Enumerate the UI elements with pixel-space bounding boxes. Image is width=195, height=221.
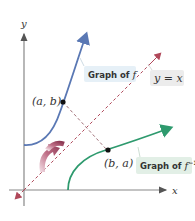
line-label: y = x	[153, 72, 183, 85]
inverse-function-diagram: y x (a, b) (b, a) Graph of f y = x Graph…	[0, 0, 195, 221]
x-axis-label: x	[172, 185, 178, 196]
line-y-equals-x-tail	[16, 190, 24, 198]
point-b-a	[105, 147, 110, 152]
graph-finv-label: Graph of f−1	[140, 159, 195, 171]
point-a-b-label: (a, b)	[32, 95, 61, 108]
point-b-a-label: (b, a)	[104, 157, 133, 170]
graph-f-curve	[24, 35, 86, 145]
reflection-segment	[63, 102, 107, 150]
y-axis-label: y	[20, 18, 27, 29]
graph-f-label: Graph of f	[88, 69, 139, 80]
diagonal-arrowhead	[150, 54, 160, 64]
